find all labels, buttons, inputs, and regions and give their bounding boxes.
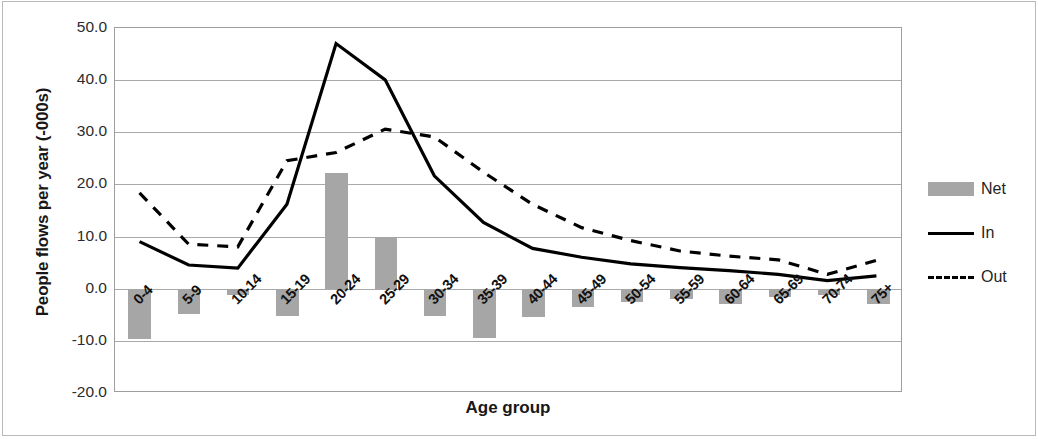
y-axis-tick-label: -10.0 <box>45 331 107 349</box>
y-axis-tick-label: 30.0 <box>45 122 107 140</box>
y-axis-tick-label: 10.0 <box>45 227 107 245</box>
chart-legend: NetInOut <box>928 167 1032 299</box>
plot-area <box>114 27 902 392</box>
line-series-in <box>140 44 877 281</box>
y-axis-tick-label: 20.0 <box>45 174 107 192</box>
legend-item-in: In <box>928 211 1032 255</box>
legend-label: In <box>981 224 994 242</box>
line-series-layer <box>115 28 901 391</box>
y-axis-tick-label: 40.0 <box>45 70 107 88</box>
y-axis-tick-label: 0.0 <box>45 279 107 297</box>
y-axis-title: People flows per year (-000s) <box>33 22 53 382</box>
legend-item-net: Net <box>928 167 1032 211</box>
y-axis-tick-label: 50.0 <box>45 18 107 36</box>
legend-label: Out <box>981 268 1007 286</box>
legend-item-out: Out <box>928 255 1032 299</box>
chart-figure: 50.040.030.020.010.00.0-10.0-20.0 People… <box>2 1 1036 436</box>
legend-label: Net <box>981 180 1006 198</box>
x-axis-title: Age group <box>114 398 902 418</box>
dashed-line-swatch-icon <box>928 270 974 284</box>
y-axis-tick-label: -20.0 <box>45 383 107 401</box>
solid-line-swatch-icon <box>928 226 974 240</box>
bar-swatch-icon <box>928 182 974 196</box>
